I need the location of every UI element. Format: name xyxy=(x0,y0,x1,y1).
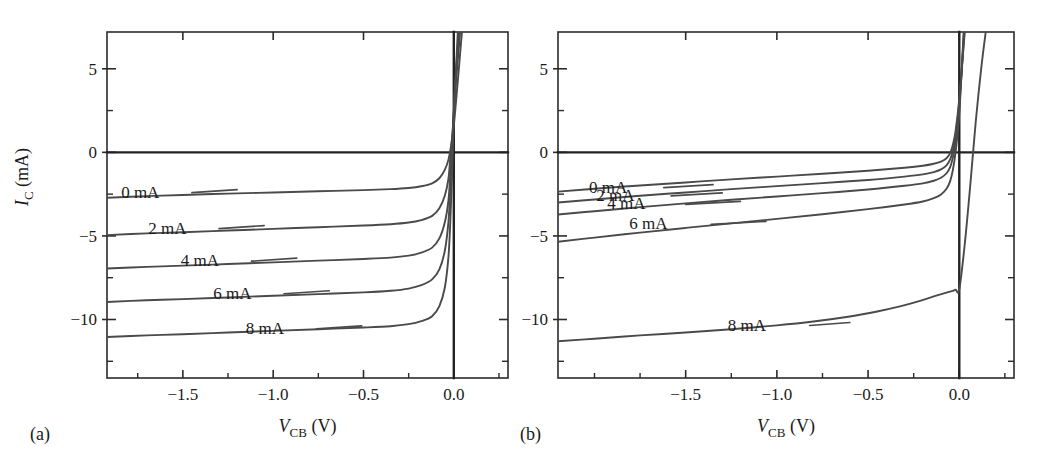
curve-label-8-mA: 8 mA xyxy=(246,319,285,338)
curve-label-2-mA: 2 mA xyxy=(148,219,187,238)
y-tick-label: −5 xyxy=(79,227,97,246)
x-tick-label: −1.0 xyxy=(258,385,289,404)
curve-label-6-mA: 6 mA xyxy=(213,284,252,303)
iv-characteristics-figure: −1.5−1.0−0.50.050−5−10VCB (V)IC (mA)0 mA… xyxy=(0,0,1049,462)
figure-container: −1.5−1.0−0.50.050−5−10VCB (V)IC (mA)0 mA… xyxy=(0,0,1049,462)
x-tick-label: −1.0 xyxy=(761,385,792,404)
y-tick-label: 0 xyxy=(540,143,549,162)
curve-0-mA xyxy=(558,32,965,192)
curve-0-mA xyxy=(107,32,462,198)
curves-group xyxy=(107,32,462,337)
curve-leader-8-mA xyxy=(810,323,850,326)
curve-leader-4-mA xyxy=(252,258,297,261)
x-tick-label: −1.5 xyxy=(670,385,701,404)
y-tick-label: 5 xyxy=(540,60,549,79)
curve-2-mA xyxy=(107,32,460,235)
curve-leader-0-mA xyxy=(664,185,713,188)
y-axis-label: IC (mA) xyxy=(12,148,36,207)
curve-label-8-mA: 8 mA xyxy=(728,316,767,335)
curve-leader-0-mA xyxy=(192,190,237,193)
curve-leader-2-mA xyxy=(219,226,264,229)
x-axis-label: VCB (V) xyxy=(757,416,815,440)
curve-label-0-mA: 0 mA xyxy=(121,183,160,202)
x-tick-label: −0.5 xyxy=(348,385,379,404)
x-tick-label: 0.0 xyxy=(443,385,464,404)
curve-label-4-mA: 4 mA xyxy=(181,251,220,270)
curve-8-mA xyxy=(107,32,458,337)
curve-label-6-mA: 6 mA xyxy=(629,214,668,233)
panel-letter: (a) xyxy=(30,424,50,445)
y-tick-label: −10 xyxy=(521,310,548,329)
panel-b: −1.5−1.0−0.50.050−5−10VCB (V)0 mA2 mA4 m… xyxy=(521,32,1014,440)
x-axis-label: VCB (V) xyxy=(279,416,337,440)
panel-a: −1.5−1.0−0.50.050−5−10VCB (V)IC (mA)0 mA… xyxy=(12,32,508,440)
y-tick-label: 0 xyxy=(89,143,98,162)
x-tick-label: 0.0 xyxy=(949,385,970,404)
y-tick-label: −5 xyxy=(530,227,548,246)
x-tick-label: −0.5 xyxy=(853,385,884,404)
y-tick-label: 5 xyxy=(89,60,98,79)
curve-label-4-mA: 4 mA xyxy=(607,194,646,213)
panel-letter: (b) xyxy=(520,424,541,445)
x-tick-label: −1.5 xyxy=(167,385,198,404)
y-tick-label: −10 xyxy=(70,310,97,329)
